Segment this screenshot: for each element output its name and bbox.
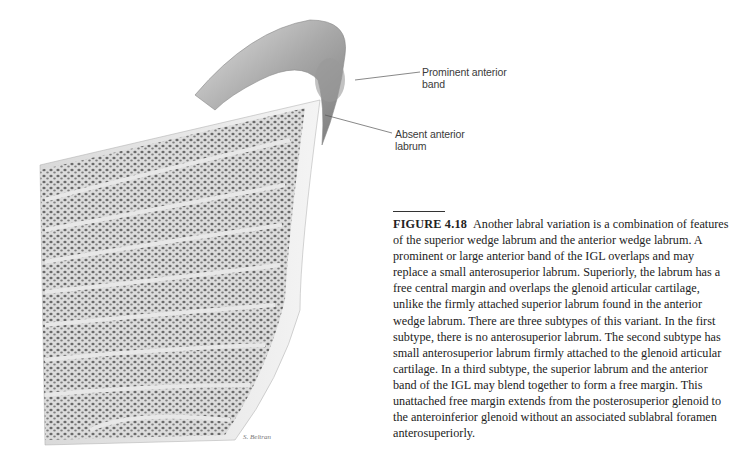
figure-number: FIGURE 4.18: [393, 217, 467, 231]
figure-caption: FIGURE 4.18Another labral variation is a…: [393, 216, 729, 441]
leader-line-anterior-band: [355, 72, 420, 80]
leader-line-anterior-labrum: [325, 115, 392, 133]
label-absent-anterior-labrum: Absent anterior labrum: [395, 128, 465, 152]
caption-text: Another labral variation is a combinatio…: [393, 217, 729, 440]
caption-rule: [393, 211, 445, 212]
anterior-band: [315, 58, 345, 102]
label-prominent-anterior-band: Prominent anterior band: [422, 66, 507, 90]
artist-signature: S. Beltran: [243, 433, 271, 441]
